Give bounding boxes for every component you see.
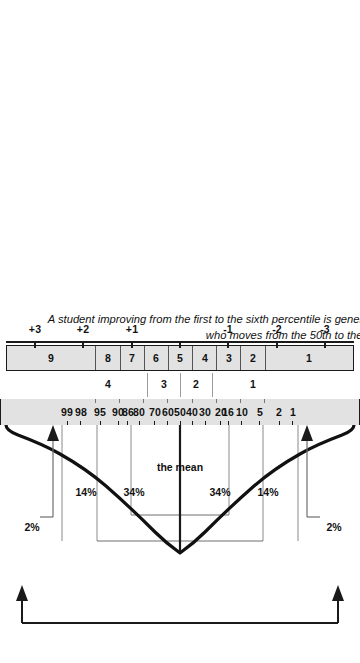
- percentile-tickmark: [154, 421, 155, 425]
- percentile-minor-tick: [95, 399, 96, 403]
- percentile-tickmark: [67, 421, 68, 425]
- stanine-box-5: 5: [168, 345, 192, 371]
- percentile-minor-tick: [216, 399, 217, 403]
- callout-lower: [307, 441, 320, 517]
- percentile-tick-1: 1: [290, 407, 296, 418]
- percentiles-scale: 1251016203040506070808690959899: [0, 399, 360, 425]
- stanine-box-4: 4: [192, 345, 216, 371]
- stanine-label: 1: [306, 352, 312, 364]
- stanine-box-2: 2: [240, 345, 264, 371]
- area-label-14-lower: 14%: [257, 486, 278, 498]
- area-label-34-lower: 34%: [209, 486, 230, 498]
- percentile-tickmark: [80, 421, 81, 425]
- arrowhead-bottom: [332, 585, 344, 601]
- quartile-boundary-tick: [147, 373, 148, 397]
- percentile-tick-30: 30: [199, 407, 211, 418]
- quartile-tick-4: 4: [104, 379, 110, 390]
- arrowhead-top: [16, 585, 28, 601]
- percentile-tickmark: [259, 421, 260, 425]
- percentile-tick-99: 99: [61, 407, 73, 418]
- percentile-tick-2: 2: [276, 407, 282, 418]
- percentile-minor-tick: [192, 399, 193, 403]
- stanine-box-7: 7: [120, 345, 144, 371]
- percentile-tickmark: [180, 421, 181, 425]
- stanine-box-3: 3: [216, 345, 240, 371]
- percentile-tick-5: 5: [256, 407, 262, 418]
- percentile-tick-70: 70: [149, 407, 161, 418]
- quartile-tick-1: 1: [249, 379, 255, 390]
- quartile-boundary-tick: [180, 373, 181, 397]
- percentile-tickmark: [279, 421, 280, 425]
- quartile-boundary-tick: [212, 373, 213, 397]
- stanine-label: 8: [105, 352, 111, 364]
- percentile-tickmark: [228, 421, 229, 425]
- stanine-label: 5: [178, 352, 184, 364]
- percentile-tick-95: 95: [94, 407, 106, 418]
- percentile-tickmark: [100, 421, 101, 425]
- stanine-label: 6: [153, 352, 159, 364]
- mean-label: the mean: [157, 461, 203, 473]
- percentile-tickmark: [192, 421, 193, 425]
- stanine-label: 7: [129, 352, 135, 364]
- percentile-minor-tick: [143, 399, 144, 403]
- percentile-tickmark: [167, 421, 168, 425]
- percentile-tickmark: [118, 421, 119, 425]
- percentile-tick-90: 90: [112, 407, 124, 418]
- percentile-tick-50: 50: [174, 407, 186, 418]
- percentile-tickmark: [139, 421, 140, 425]
- area-label-34-upper: 34%: [123, 486, 144, 498]
- quartile-tick-2: 2: [193, 379, 199, 390]
- stanine-label: 2: [250, 352, 256, 364]
- percentile-tickmark: [292, 421, 293, 425]
- callout-label-2-lower: 2%: [326, 521, 341, 533]
- percentile-tick-40: 40: [186, 407, 198, 418]
- stanine-box-6: 6: [144, 345, 168, 371]
- quartiles-scale: 1234: [0, 373, 360, 397]
- percentile-minor-tick: [240, 399, 241, 403]
- callout-label-2-upper: 2%: [24, 521, 39, 533]
- stanine-box-8: 8: [95, 345, 119, 371]
- area-label-14-upper: 14%: [75, 486, 96, 498]
- stanine-box-1: 1: [265, 345, 354, 371]
- stanine-box-9: 9: [6, 345, 95, 371]
- stanine-label: 9: [48, 352, 54, 364]
- percentile-minor-tick: [167, 399, 168, 403]
- figure-canvas: 14% 34% 34% 14% 2% 2% the mean 125101620…: [0, 0, 360, 663]
- percentile-minor-tick: [119, 399, 120, 403]
- callout-upper: [40, 441, 53, 517]
- figure-caption: A student improving from the first to th…: [44, 311, 360, 343]
- percentile-tickmark: [205, 421, 206, 425]
- callout-arrowhead-lower: [301, 425, 313, 441]
- sd-tickmark: [34, 341, 36, 348]
- percentile-tickmark: [220, 421, 221, 425]
- stanine-label: 4: [202, 352, 208, 364]
- stanine-label: 3: [226, 352, 232, 364]
- quartile-tick-3: 3: [161, 379, 167, 390]
- percentile-tick-80: 80: [133, 407, 145, 418]
- range-bracket-arrow: [22, 601, 338, 623]
- percentile-tick-10: 10: [236, 407, 248, 418]
- stanines-band: 987654321: [0, 345, 360, 371]
- percentile-tick-98: 98: [75, 407, 87, 418]
- percentile-tickmark: [241, 421, 242, 425]
- percentile-tickmark: [127, 421, 128, 425]
- callout-arrowhead-upper: [47, 425, 59, 441]
- percentile-minor-tick: [264, 399, 265, 403]
- sd-tick-+3: +3: [29, 324, 41, 335]
- percentile-tick-20: 20: [215, 407, 227, 418]
- percentile-tick-60: 60: [162, 407, 174, 418]
